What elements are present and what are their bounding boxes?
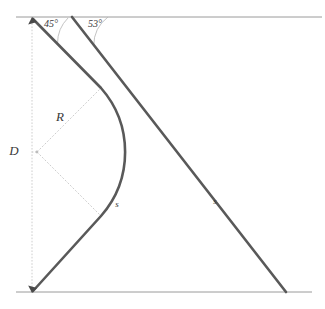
radius-line-upper <box>37 88 101 152</box>
diameter-label: D <box>8 143 19 158</box>
diagram-canvas: 45° 53° D R s s <box>0 0 325 309</box>
curved-path <box>33 19 125 291</box>
radius-line-lower <box>37 152 101 216</box>
arc-center-point <box>36 151 39 154</box>
geometry-figure: 45° 53° D R s s <box>0 0 325 309</box>
straight-path <box>72 17 286 292</box>
radius-label: R <box>55 109 64 124</box>
angle-label-left: 45° <box>44 18 58 29</box>
angle-arc-45 <box>57 18 68 44</box>
arc-length-label: s <box>115 199 119 209</box>
angle-label-right: 53° <box>88 18 102 29</box>
straight-length-label: s <box>213 196 217 206</box>
